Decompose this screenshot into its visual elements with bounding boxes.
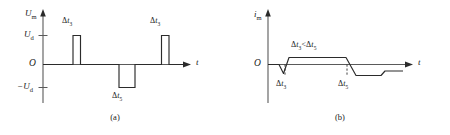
marker-label-dt3: Δt3: [276, 80, 286, 90]
figure-container: Um Ud O −Ud t Δt3 Δt5 Δt3 (a): [0, 0, 450, 135]
x-axis-label-b: t: [418, 58, 421, 67]
marker-label-dt5: Δt5: [338, 80, 348, 90]
panel-a-voltage-waveform: Um Ud O −Ud t Δt3 Δt5 Δt3 (a): [0, 0, 225, 135]
pulse-label-3: Δt3: [150, 17, 160, 27]
pulse-label-2: Δt5: [112, 92, 122, 102]
pulse-label-1: Δt3: [62, 17, 72, 27]
origin-label-a: O: [29, 59, 36, 69]
tick-label-ud-positive: Ud: [24, 30, 34, 41]
panel-b-current-waveform: im O t Δt3<Δt5 Δt3 Δt5 (b): [225, 0, 450, 135]
tick-label-ud-negative: −Ud: [17, 82, 33, 93]
voltage-waveform-trace: [43, 36, 185, 88]
y-axis-label-b: im: [254, 10, 262, 21]
panel-caption-a: (a): [95, 112, 135, 122]
inequality-annotation: Δt3<Δt5: [291, 41, 317, 51]
origin-label-b: O: [254, 59, 261, 69]
x-axis-arrow-b: [405, 61, 413, 67]
y-axis-arrow-a: [40, 9, 46, 17]
panel-caption-b: (b): [320, 112, 360, 122]
x-axis-label-a: t: [196, 58, 199, 67]
current-waveform-trace: [268, 58, 403, 76]
y-axis-arrow-b: [265, 9, 271, 17]
y-axis-label-a: Um: [25, 9, 37, 20]
